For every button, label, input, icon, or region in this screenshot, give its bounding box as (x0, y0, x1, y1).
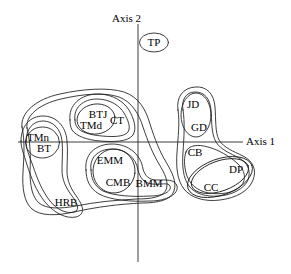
data-point-cmb: CMB (106, 177, 130, 188)
data-point-jd: JD (187, 99, 199, 110)
data-point-tp: TP (148, 37, 161, 48)
data-point-tmd: TMd (80, 120, 102, 131)
data-point-bmm: BMM (136, 178, 163, 189)
axis-2-label: Axis 2 (112, 13, 141, 24)
data-point-gd: GD (191, 122, 207, 133)
cluster-diagram-figure: Axis 2 Axis 1 TP BTJ TMd CT TMn BT EMM C… (0, 0, 291, 274)
data-point-dp: DP (229, 164, 243, 175)
cluster-hull-cc-dp (187, 152, 254, 201)
data-point-emm: EMM (97, 155, 123, 166)
data-point-bt: BT (37, 143, 51, 154)
data-point-ct: CT (110, 115, 124, 126)
data-point-hrb: HRB (55, 197, 78, 208)
data-point-cb: CB (188, 147, 203, 158)
data-point-cc: CC (204, 182, 219, 193)
axis-1-label: Axis 1 (246, 136, 275, 147)
